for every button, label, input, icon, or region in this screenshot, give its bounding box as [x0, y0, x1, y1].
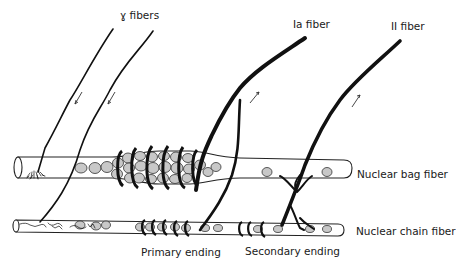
gamma-arrow-1: [75, 92, 82, 104]
ii-fiber-trunk: [282, 41, 400, 225]
ii-arrow: [352, 95, 360, 107]
fiber-end-cap: [13, 220, 19, 232]
fiber-end-cap: [14, 157, 22, 178]
ia-fiber: [196, 38, 305, 230]
label-ia-fiber: Ia fiber: [293, 18, 331, 30]
label-secondary-ending: Secondary ending: [245, 245, 340, 257]
ii-fiber: [280, 41, 400, 230]
ia-arrow: [250, 92, 259, 103]
nuclear-chain-fiber: [13, 220, 344, 236]
label-ii-fiber: II fiber: [391, 20, 425, 32]
muscle-spindle-diagram: ɣ fibers Ia fiber II fiber Nuclear bag f…: [0, 0, 456, 266]
label-primary-ending: Primary ending: [141, 246, 221, 258]
gamma-arrow-2: [108, 92, 115, 104]
label-nuclear-bag-fiber: Nuclear bag fiber: [357, 168, 449, 180]
label-nuclear-chain-fiber: Nuclear chain fiber: [356, 225, 456, 237]
gamma-fibers: [38, 29, 153, 222]
label-gamma-fibers: ɣ fibers: [120, 9, 159, 21]
